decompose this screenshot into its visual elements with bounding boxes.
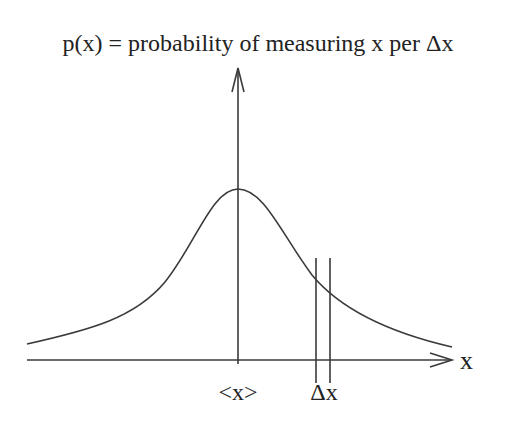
x-axis bbox=[27, 353, 452, 367]
x-axis-label: x bbox=[460, 346, 473, 375]
probability-distribution-diagram: p(x) = probability of measuring x per Δx… bbox=[0, 0, 507, 425]
interval-label: Δx bbox=[310, 379, 337, 405]
probability-curve bbox=[27, 189, 452, 347]
diagram-title: p(x) = probability of measuring x per Δx bbox=[63, 30, 454, 56]
mean-label: <x> bbox=[218, 379, 257, 405]
y-axis bbox=[232, 68, 244, 364]
